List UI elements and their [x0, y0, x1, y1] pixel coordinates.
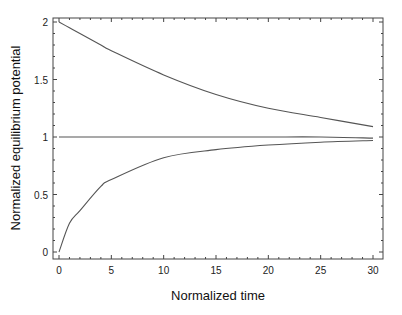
x-tick-label: 5: [109, 265, 115, 276]
x-tick-label: 25: [315, 265, 327, 276]
series-line-2: [59, 140, 373, 252]
data-lines: [59, 22, 373, 252]
series-line-0: [59, 22, 373, 127]
y-tick-label: 1.5: [34, 75, 48, 86]
y-tick-label: 0: [42, 247, 48, 258]
y-tick-label: 2: [42, 17, 48, 28]
plot-frame: [53, 18, 383, 259]
y-axis-title: Normalized equilibrium potential: [8, 45, 23, 230]
axis-ticks: [53, 18, 383, 259]
y-tick-label: 0.5: [34, 190, 48, 201]
x-tick-labels: 051015202530: [56, 265, 379, 276]
x-tick-label: 20: [263, 265, 275, 276]
x-tick-label: 30: [367, 265, 379, 276]
line-chart: 051015202530 00.511.52 Normalized time N…: [0, 0, 402, 315]
y-tick-label: 1: [42, 132, 48, 143]
x-tick-label: 15: [210, 265, 222, 276]
y-tick-labels: 00.511.52: [34, 17, 48, 258]
x-axis-title: Normalized time: [171, 288, 265, 303]
x-tick-label: 0: [56, 265, 62, 276]
x-tick-label: 10: [158, 265, 170, 276]
series-line-1: [59, 137, 373, 138]
